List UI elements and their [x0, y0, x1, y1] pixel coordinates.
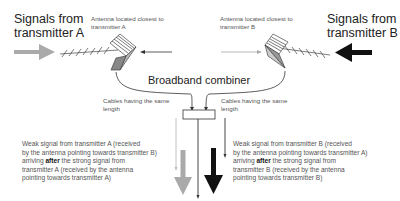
note-b-line3-post: the strong signal from	[271, 157, 336, 164]
antenna-b-label-line1: Antenna located closest to	[220, 15, 293, 23]
transmitter-b-title: Signals from transmitter B	[327, 12, 398, 40]
cables-left-line2: length	[103, 105, 169, 113]
note-b-line4: transmitter B (received by the antenna	[233, 166, 368, 175]
cables-left-label: Cables having the same length	[103, 97, 169, 113]
cables-right-line1: Cables having the same	[221, 97, 287, 105]
note-b-line3-bold: after	[256, 157, 270, 164]
combiner-label: Broadband combiner	[148, 74, 250, 87]
note-b-line3-pre: arriving	[233, 157, 256, 164]
transmitter-a-title-line1: Signals from	[14, 12, 84, 26]
signal-a-arrow-icon	[14, 44, 55, 60]
transmitter-b-title-line2: transmitter B	[327, 26, 398, 40]
note-weak-signal-b: Weak signal from transmitter B (received…	[233, 140, 368, 183]
note-a-line1: Weak signal from transmitter A (received	[22, 140, 157, 149]
note-b-line3: arriving after the strong signal from	[233, 157, 368, 166]
strong-b-output-arrow-icon	[204, 148, 223, 194]
note-a-line3: arriving after the strong signal from	[22, 157, 157, 166]
antenna-b-icon	[265, 34, 330, 68]
note-a-line3-post: the strong signal from	[60, 157, 125, 164]
note-a-line3-bold: after	[45, 157, 59, 164]
transmitter-a-title-line2: transmitter A	[14, 26, 84, 40]
antenna-b-label-line2: transmitter B	[220, 23, 293, 31]
strong-a-output-arrow-icon	[174, 150, 192, 195]
antenna-b-label: Antenna located closest to transmitter B	[220, 15, 293, 31]
weak-signal-b-arrow-icon	[140, 50, 172, 54]
cables-right-line2: length	[221, 105, 287, 113]
cables-left-line1: Cables having the same	[103, 97, 169, 105]
antenna-a-label-line1: Antenna located closest to	[91, 15, 164, 23]
signal-b-arrow-icon	[335, 43, 372, 62]
note-b-line5: pointing towards transmitter B)	[233, 174, 368, 183]
note-a-line4: transmitter A (received by the antenna	[22, 166, 157, 175]
antenna-a-label: Antenna located closest to transmitter A	[91, 15, 164, 31]
transmitter-b-title-line1: Signals from	[327, 12, 398, 26]
note-a-line3-pre: arriving	[22, 157, 45, 164]
cables-right-label: Cables having the same length	[221, 97, 287, 113]
antenna-a-label-line2: transmitter A	[91, 23, 164, 31]
weak-signal-a-arrow-icon	[221, 50, 262, 54]
note-a-line5: pointing towards transmitter A)	[22, 174, 157, 183]
note-b-line1: Weak signal from transmitter B (received	[233, 140, 368, 149]
combiner-box	[183, 110, 215, 119]
note-a-line2: by the antenna pointing towards transmit…	[22, 149, 157, 158]
transmitter-a-title: Signals from transmitter A	[14, 12, 84, 40]
note-weak-signal-a: Weak signal from transmitter A (received…	[22, 140, 157, 183]
note-b-line2: by the antenna pointing towards transmit…	[233, 149, 368, 158]
